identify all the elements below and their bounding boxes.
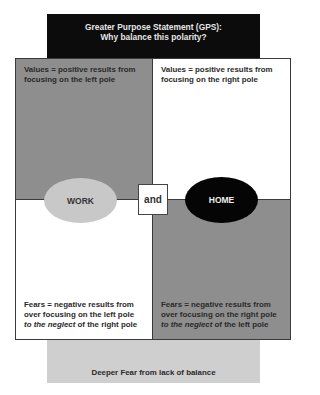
pole-work-label: WORK <box>67 196 94 206</box>
right-fears-line3: to the neglect of the left pole <box>161 320 282 330</box>
left-fears-line1: Fears = negative results from <box>24 300 144 310</box>
right-fears-line2: over focusing on the right pole <box>161 310 282 320</box>
gps-question: Why balance this polarity? <box>47 32 260 42</box>
connector-and-box: and <box>138 184 168 215</box>
left-fears-line2: over focusing on the left pole <box>24 310 144 320</box>
deeper-fear-label: Deeper Fear from lack of balance <box>91 368 215 377</box>
connector-and-label: and <box>144 194 162 205</box>
right-values-line1: Values = positive results from <box>161 65 282 75</box>
deeper-fear-box: Deeper Fear from lack of balance <box>47 340 260 383</box>
left-fears-emphasis: to the neglect <box>24 320 75 329</box>
pole-home-ellipse: HOME <box>185 177 258 223</box>
left-fears-rest: of the right pole <box>75 320 137 329</box>
gps-title: Greater Purpose Statement (GPS): <box>47 22 260 32</box>
left-values-line2: focusing on the left pole <box>24 75 144 85</box>
right-values-line2: focusing on the right pole <box>161 75 282 85</box>
greater-purpose-statement-box: Greater Purpose Statement (GPS): Why bal… <box>47 14 260 59</box>
pole-work-ellipse: WORK <box>44 178 117 223</box>
right-fears-line1: Fears = negative results from <box>161 300 282 310</box>
left-fears-line3: to the neglect of the right pole <box>24 320 144 330</box>
left-values-line1: Values = positive results from <box>24 65 144 75</box>
right-fears-rest: of the left pole <box>212 320 268 329</box>
right-fears-emphasis: to the neglect <box>161 320 212 329</box>
pole-home-label: HOME <box>209 195 235 205</box>
